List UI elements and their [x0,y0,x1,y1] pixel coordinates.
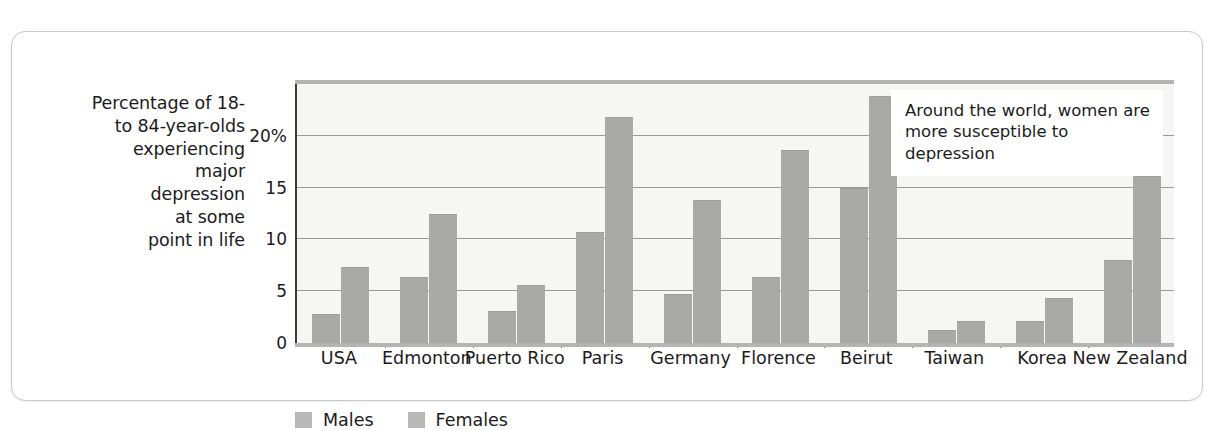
legend-label: Males [323,410,374,430]
bar [928,330,956,343]
y-axis-tick-label: 20% [217,126,287,146]
figure-card: Percentage of 18- to 84-year-olds experi… [11,31,1203,401]
y-axis-tick-label: 10 [217,229,287,249]
y-axis-tick-label: 5 [217,281,287,301]
bar [517,285,545,343]
legend-item-males[interactable]: Males [295,410,374,430]
x-axis-labels: USAEdmontonPuerto RicoParisGermanyFloren… [295,348,1174,408]
bar [1045,298,1073,343]
bar [341,267,369,343]
bar [693,200,721,343]
bar [957,321,985,343]
annotation-callout: Around the world, women are more suscept… [891,90,1163,176]
legend-swatch-icon [295,412,312,428]
bar [400,277,428,343]
bar [1133,176,1161,343]
bar [312,314,340,343]
legend: Males Females [295,410,508,430]
legend-label: Females [436,410,508,430]
x-axis-label: New Zealand [1068,348,1192,369]
bar [488,311,516,343]
bar [781,150,809,343]
bar [1016,321,1044,343]
annotation-text: Around the world, women are more suscept… [905,101,1150,163]
bar [840,188,868,343]
bar [752,277,780,343]
legend-swatch-icon [408,412,425,428]
plot-baseline [295,343,1174,347]
bar [1104,260,1132,343]
bar [429,214,457,344]
bar [605,117,633,343]
gridline [297,187,1174,188]
y-axis-ticks: 20%151050 [215,84,287,343]
legend-item-females[interactable]: Females [408,410,508,430]
bar [576,232,604,343]
y-axis-tick-label: 15 [217,178,287,198]
bar [664,294,692,343]
